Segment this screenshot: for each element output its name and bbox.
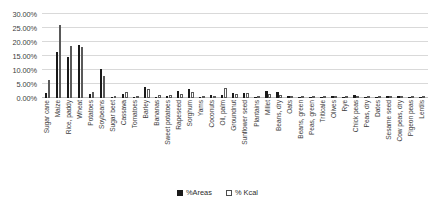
legend-swatch-icon <box>226 190 232 196</box>
x-axis-tick-label: Oats <box>287 100 294 115</box>
x-axis-label-slot: Sugar beet <box>108 100 119 182</box>
legend-label: % Kcal <box>235 188 258 197</box>
bar <box>114 96 117 98</box>
x-axis-label-slot: Maize <box>53 100 64 182</box>
bar-group <box>251 14 262 98</box>
bar-group <box>406 14 417 98</box>
bar-group <box>64 14 75 98</box>
y-axis-tick-label: 25.00% <box>13 24 37 33</box>
bar <box>345 96 348 98</box>
bar <box>268 94 271 98</box>
bar-group <box>75 14 86 98</box>
x-axis-tick-label: Barley <box>143 100 150 119</box>
x-axis-tick-label: Bananas <box>154 100 161 127</box>
bar-group <box>273 14 284 98</box>
x-axis-label-slot: Millet <box>262 100 273 182</box>
bar <box>301 96 304 98</box>
x-axis-label-slot: Peas, green <box>306 100 317 182</box>
bar <box>378 96 381 98</box>
bar <box>125 92 128 98</box>
x-axis-label-slot: Olives <box>328 100 339 182</box>
bar <box>246 93 249 98</box>
x-axis-label-slot: Rapeseed <box>174 100 185 182</box>
bar <box>158 95 161 98</box>
bar-group <box>86 14 97 98</box>
bar <box>81 47 84 98</box>
bar-series-container <box>42 14 428 98</box>
bar-group <box>42 14 53 98</box>
x-axis-tick-label: Beans, dry <box>276 100 283 132</box>
x-axis-label-slot: Tomatoes <box>130 100 141 182</box>
x-axis-label-slot: Sunflower seed <box>240 100 251 182</box>
x-axis-tick-label: Sugar cane <box>44 100 51 134</box>
bar-group <box>417 14 428 98</box>
x-axis-label-slot: Yams <box>196 100 207 182</box>
bar-group <box>395 14 406 98</box>
x-axis-tick-label: Groundnut <box>231 100 238 132</box>
x-axis-tick-label: Chick peas <box>353 100 360 133</box>
bar-group <box>372 14 383 98</box>
bar-group <box>306 14 317 98</box>
x-axis-tick-label: Sorghum <box>187 100 194 127</box>
bar <box>213 96 216 98</box>
bar-group <box>207 14 218 98</box>
y-axis-tick-label: 0.00% <box>17 94 37 103</box>
x-axis-label-slot: Wheat <box>75 100 86 182</box>
bar-group <box>339 14 350 98</box>
bar-group <box>174 14 185 98</box>
x-axis-tick-label: Yams <box>198 100 205 117</box>
x-axis-label-slot: Chick peas <box>350 100 361 182</box>
bar <box>323 96 326 98</box>
bar-group <box>53 14 64 98</box>
bar-group <box>196 14 207 98</box>
x-axis-label-slot: Rice, paddy <box>64 100 75 182</box>
x-axis-tick-label: Peas, dry <box>364 100 371 128</box>
bar <box>422 96 425 98</box>
bar <box>279 95 282 98</box>
bar <box>103 76 106 98</box>
x-axis-tick-label: Triticale <box>320 100 327 123</box>
bar-group <box>328 14 339 98</box>
x-axis-label-slot: Triticale <box>317 100 328 182</box>
bar-group <box>152 14 163 98</box>
bar <box>180 94 183 98</box>
bar <box>169 95 172 98</box>
x-axis-label-slot: Pigeon peas <box>406 100 417 182</box>
x-axis-tick-label: Beans, green <box>298 100 305 140</box>
x-axis-tick-label: Millet <box>265 100 272 116</box>
x-axis-label-slot: Beans, dry <box>273 100 284 182</box>
bar-group <box>361 14 372 98</box>
x-axis-tick-label: Dates <box>375 100 382 118</box>
x-axis-tick-label: Rye <box>342 100 349 113</box>
plot-area <box>42 14 428 98</box>
bar-group <box>284 14 295 98</box>
legend-swatch-icon <box>177 190 183 196</box>
x-axis-label-slot: Cow peas, dry <box>395 100 406 182</box>
bar <box>136 96 139 98</box>
chart-legend: %Areas% Kcal <box>0 188 435 197</box>
x-axis-tick-label: Oil, palm <box>220 100 227 127</box>
bar-group <box>141 14 152 98</box>
bar <box>92 92 95 98</box>
bar-group <box>383 14 394 98</box>
bar-group <box>163 14 174 98</box>
bar <box>59 25 62 98</box>
bar <box>400 96 403 98</box>
x-axis-label-slot: Oats <box>284 100 295 182</box>
bar <box>389 96 392 98</box>
bar-group <box>240 14 251 98</box>
x-axis-label-slot: Groundnut <box>229 100 240 182</box>
x-axis-label-slot: Bananas <box>152 100 163 182</box>
bar-group <box>317 14 328 98</box>
x-axis-label-slot: Barley <box>141 100 152 182</box>
bar-group <box>350 14 361 98</box>
bar-group <box>185 14 196 98</box>
bar <box>290 96 293 98</box>
x-axis-tick-label: Lentils <box>419 100 426 120</box>
x-axis-label-slot: Lentils <box>417 100 428 182</box>
x-axis-tick-label: Rice, paddy <box>66 100 73 135</box>
bar <box>257 96 260 98</box>
legend-entry: %Areas <box>177 188 212 197</box>
x-axis-label-slot: Coconuts <box>207 100 218 182</box>
bar-group <box>218 14 229 98</box>
